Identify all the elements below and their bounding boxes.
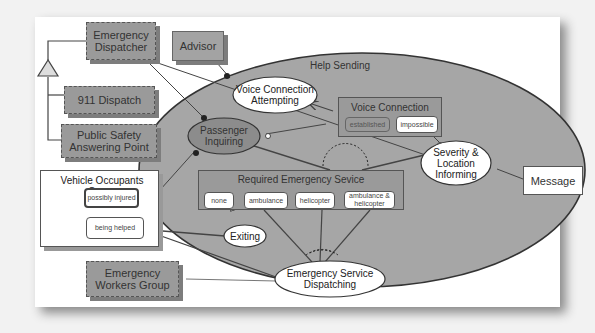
exiting-label: Exiting: [224, 226, 266, 246]
severity-informing-label: Severity & Location Informing: [421, 142, 491, 184]
passenger-inquiring-label: Passenger Inquiring: [188, 120, 260, 152]
emergency-workers-object[interactable]: Emergency Workers Group: [86, 261, 179, 297]
dispatch-911-object[interactable]: 911 Dispatch: [64, 86, 155, 114]
public-safety-object[interactable]: Public Safety Answering Point: [61, 124, 157, 158]
state-being-helped[interactable]: being helped: [86, 217, 144, 239]
service-dispatching-label: Emergency Service Dispatching: [275, 262, 385, 296]
state-impossible[interactable]: impossible: [396, 116, 438, 133]
generalization-triangle-icon: [38, 60, 58, 76]
link-workers-dispatching: [186, 279, 276, 281]
state-ambulance-helicopter[interactable]: ambulance & helicopter: [344, 191, 395, 209]
advisor-object[interactable]: Advisor: [172, 31, 224, 61]
required-service-title: Required Emergency Sevice: [238, 174, 365, 185]
state-none[interactable]: none: [204, 192, 234, 209]
state-established[interactable]: established: [345, 117, 390, 132]
emergency-dispatcher-object[interactable]: Emergency Dispatcher: [86, 22, 156, 60]
instrument-dot-established: [266, 134, 271, 139]
help-sending-title: Help Sending: [310, 60, 370, 71]
state-possibly-injured[interactable]: possibly injured: [84, 188, 139, 208]
voice-connection-title: Voice Connection: [351, 102, 429, 113]
state-ambulance[interactable]: ambulance: [244, 192, 288, 209]
state-helicopter[interactable]: helicopter: [295, 192, 335, 209]
agent-dot-advisor: [224, 73, 230, 79]
message-object[interactable]: Message: [523, 166, 583, 195]
voice-attempting-label: Voice Connection Attempting: [233, 78, 317, 112]
